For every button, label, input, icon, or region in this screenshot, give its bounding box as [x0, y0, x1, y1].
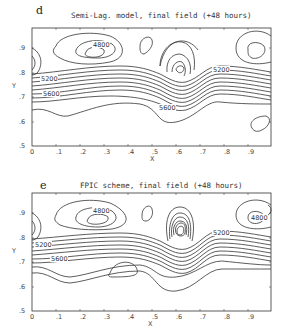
- panel-letter: e: [40, 179, 47, 192]
- y-axis-label: Y: [12, 247, 16, 255]
- y-tick: .5: [19, 307, 25, 315]
- y-tick: .6: [19, 283, 25, 291]
- x-tick: .5: [152, 313, 158, 321]
- contour-label: 4800: [93, 41, 110, 49]
- contour-label: 4800: [93, 207, 110, 215]
- contour-label: 4800: [251, 214, 268, 222]
- y-axis-label: Y: [12, 82, 16, 90]
- chart-title: FPIC scheme, final field (+48 hours): [80, 181, 243, 190]
- x-tick: .2: [80, 148, 86, 156]
- x-tick: .6: [176, 148, 182, 156]
- x-tick: .1: [56, 148, 62, 156]
- x-tick: .9: [248, 313, 254, 321]
- contour-label: 5200: [35, 241, 52, 249]
- y-tick: .9: [19, 44, 25, 52]
- x-tick: .7: [200, 148, 206, 156]
- x-tick: .4: [128, 313, 134, 321]
- x-tick: .8: [224, 148, 230, 156]
- y-tick: .5: [19, 142, 25, 150]
- x-tick: 0: [30, 148, 34, 156]
- x-tick: .4: [128, 148, 134, 156]
- contour-label: 5600: [43, 90, 60, 98]
- x-tick: .7: [200, 313, 206, 321]
- x-tick: .3: [104, 313, 110, 321]
- y-tick: .7: [19, 93, 25, 101]
- x-tick: 0: [30, 313, 34, 321]
- panel-letter: d: [36, 4, 43, 17]
- y-tick: .9: [19, 209, 25, 217]
- contour-label: 5600: [51, 255, 68, 263]
- y-tick: .8: [19, 69, 25, 77]
- panel-d-semi-lagrangian: 4800 5200 5600 5600 5200 d Semi-Lag. mod…: [0, 0, 282, 163]
- x-tick: .3: [104, 148, 110, 156]
- x-axis-label: X: [148, 320, 152, 327]
- y-tick: .7: [19, 258, 25, 266]
- y-tick: .6: [19, 118, 25, 126]
- contour-label: 5200: [41, 75, 58, 83]
- y-tick: .8: [19, 234, 25, 242]
- x-tick: .8: [224, 313, 230, 321]
- contour-label: 5200: [213, 229, 230, 237]
- chart-title: Semi-Lag. model, final field (+48 hours): [71, 11, 252, 20]
- x-tick: .2: [80, 313, 86, 321]
- x-tick: .1: [56, 313, 62, 321]
- panel-e-fpic: 4800 5200 5600 5200 4800 e FPIC scheme, …: [0, 165, 282, 327]
- contour-label: 5600: [159, 104, 176, 112]
- x-tick: .9: [248, 148, 254, 156]
- contour-plot-d: 4800 5200 5600 5600 5200: [0, 0, 282, 163]
- x-tick: .6: [176, 313, 182, 321]
- x-axis-label: X: [150, 155, 154, 163]
- contour-label: 5200: [213, 66, 230, 74]
